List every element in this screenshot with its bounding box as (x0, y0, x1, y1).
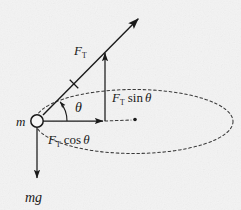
horizontal-label-theta: θ (83, 132, 90, 147)
vertical-component-label: FT sinθ (111, 90, 152, 107)
weight-label: mg (25, 190, 42, 205)
diagram-canvas: m FT FT sinθ θ FT cosθ mg (0, 0, 241, 210)
orbit-center-dot (133, 118, 137, 122)
mass-bob-circle (31, 115, 43, 127)
horizontal-label-cos: cos (61, 132, 82, 147)
horizontal-component-label: FT cosθ (47, 132, 90, 149)
angle-theta-label: θ (75, 100, 82, 115)
mass-label: m (16, 114, 25, 129)
tension-label-sub: T (82, 51, 87, 60)
vertical-label-theta: θ (145, 90, 152, 105)
physics-force-diagram: m FT FT sinθ θ FT cosθ mg (0, 0, 241, 210)
vertical-label-sin: sin (125, 90, 144, 105)
